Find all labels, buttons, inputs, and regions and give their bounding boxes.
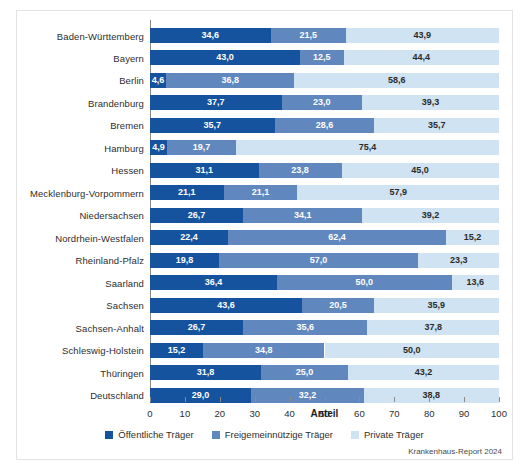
bar-row: Rheinland-Pfalz19,857,023,3 bbox=[150, 253, 499, 268]
bar-value-label: 22,4 bbox=[180, 233, 198, 242]
bar-row: Mecklenburg-Vorpommern21,121,157,9 bbox=[150, 185, 499, 200]
legend-label: Private Träger bbox=[364, 429, 424, 440]
category-label: Berlin bbox=[119, 75, 144, 86]
bar-value-label: 26,7 bbox=[188, 323, 206, 332]
bar-value-label: 43,6 bbox=[217, 301, 235, 310]
bar-segment: 25,0 bbox=[261, 365, 348, 380]
bar-segment: 34,1 bbox=[243, 208, 362, 223]
bar-row: Brandenburg37,723,039,3 bbox=[150, 95, 499, 110]
bar-value-label: 32,2 bbox=[299, 391, 317, 400]
bar-segment: 32,2 bbox=[251, 388, 363, 403]
bar-segment: 31,1 bbox=[150, 163, 259, 178]
bar-row: Sachsen-Anhalt26,735,637,8 bbox=[150, 320, 499, 335]
legend-swatch-icon bbox=[351, 431, 359, 439]
bar-segment: 44,4 bbox=[344, 50, 499, 65]
x-tick bbox=[185, 397, 186, 402]
bar-row: Hessen31,123,845,0 bbox=[150, 163, 499, 178]
bar-value-label: 50,0 bbox=[403, 346, 421, 355]
bar-value-label: 39,2 bbox=[422, 211, 440, 220]
category-label: Sachsen bbox=[106, 300, 144, 311]
bar-segment: 28,6 bbox=[275, 118, 375, 133]
x-tick bbox=[359, 397, 360, 402]
bar-value-label: 15,2 bbox=[168, 346, 186, 355]
x-tick bbox=[150, 397, 151, 402]
x-tick bbox=[429, 397, 430, 402]
bar-row: Bayern43,012,544,4 bbox=[150, 50, 499, 65]
bar-value-label: 34,1 bbox=[294, 211, 312, 220]
bar-value-label: 43,9 bbox=[414, 31, 432, 40]
bar-segment: 20,5 bbox=[302, 298, 374, 313]
bar-value-label: 36,8 bbox=[221, 76, 239, 85]
chart-legend: Öffentliche TrägerFreigemeinnützige Träg… bbox=[17, 429, 512, 440]
legend-item[interactable]: Private Träger bbox=[351, 429, 424, 440]
bar-segment: 34,6 bbox=[150, 28, 271, 43]
bar-segment: 45,0 bbox=[342, 163, 499, 178]
bar-value-label: 35,7 bbox=[428, 121, 446, 130]
bar-value-label: 13,6 bbox=[466, 278, 484, 287]
x-tick bbox=[220, 397, 221, 402]
bar-value-label: 36,4 bbox=[205, 278, 223, 287]
legend-item[interactable]: Öffentliche Träger bbox=[105, 429, 193, 440]
bar-segment: 31,8 bbox=[150, 365, 261, 380]
bar-value-label: 34,8 bbox=[255, 346, 273, 355]
bar-row: Hamburg4,919,775,4 bbox=[150, 140, 499, 155]
bar-row: Sachsen43,620,535,9 bbox=[150, 298, 499, 313]
category-label: Hamburg bbox=[104, 142, 144, 153]
bar-value-label: 26,7 bbox=[188, 211, 206, 220]
bar-segment: 43,2 bbox=[348, 365, 499, 380]
bar-segment: 35,9 bbox=[374, 298, 499, 313]
bar-value-label: 37,8 bbox=[425, 323, 443, 332]
bar-value-label: 19,7 bbox=[193, 143, 211, 152]
bar-segment: 21,5 bbox=[271, 28, 346, 43]
bar-segment: 29,0 bbox=[150, 388, 251, 403]
category-label: Nordrhein-Westfalen bbox=[55, 232, 144, 243]
bar-segment: 23,8 bbox=[259, 163, 342, 178]
x-tick bbox=[464, 397, 465, 402]
bar-segment: 23,0 bbox=[282, 95, 362, 110]
bar-value-label: 4,6 bbox=[152, 76, 165, 85]
bar-row: Niedersachsen26,734,139,2 bbox=[150, 208, 499, 223]
bar-segment: 12,5 bbox=[300, 50, 344, 65]
bar-value-label: 4,9 bbox=[152, 143, 165, 152]
category-label: Thüringen bbox=[100, 367, 144, 378]
bar-segment: 62,4 bbox=[228, 230, 446, 245]
bar-value-label: 39,3 bbox=[422, 98, 440, 107]
bar-segment: 43,9 bbox=[346, 28, 499, 43]
bar-segment: 43,6 bbox=[150, 298, 302, 313]
category-label: Bremen bbox=[110, 120, 144, 131]
bar-segment: 57,0 bbox=[219, 253, 418, 268]
bar-segment: 57,9 bbox=[297, 185, 499, 200]
category-label: Rheinland-Pfalz bbox=[76, 255, 145, 266]
bar-value-label: 23,8 bbox=[291, 166, 309, 175]
bar-segment: 23,3 bbox=[418, 253, 499, 268]
bar-value-label: 57,9 bbox=[390, 188, 408, 197]
bar-segment: 15,2 bbox=[446, 230, 499, 245]
bar-segment: 35,7 bbox=[374, 118, 499, 133]
source-caption: Krankenhaus-Report 2024 bbox=[408, 447, 502, 456]
bar-value-label: 19,8 bbox=[176, 256, 194, 265]
category-label: Hessen bbox=[111, 165, 144, 176]
bar-row: Schleswig-Holstein15,234,850,0 bbox=[150, 343, 499, 358]
bar-row: Thüringen31,825,043,2 bbox=[150, 365, 499, 380]
bar-value-label: 62,4 bbox=[328, 233, 346, 242]
plot-area: Baden-Württemberg34,621,543,9Bayern43,01… bbox=[150, 20, 499, 402]
bar-segment: 26,7 bbox=[150, 208, 243, 223]
bar-segment: 43,0 bbox=[150, 50, 300, 65]
bar-segment: 26,7 bbox=[150, 320, 243, 335]
legend-label: Freigemeinnützige Träger bbox=[225, 429, 333, 440]
bar-segment: 13,6 bbox=[452, 275, 499, 290]
bar-value-label: 23,3 bbox=[450, 256, 468, 265]
bar-value-label: 25,0 bbox=[296, 368, 314, 377]
bar-segment: 39,3 bbox=[362, 95, 499, 110]
bar-value-label: 50,0 bbox=[356, 278, 374, 287]
category-label: Schleswig-Holstein bbox=[62, 345, 144, 356]
bar-segment: 21,1 bbox=[224, 185, 298, 200]
bar-segment: 50,0 bbox=[325, 343, 500, 358]
bar-segment: 37,8 bbox=[367, 320, 499, 335]
bar-segment: 4,9 bbox=[150, 140, 167, 155]
legend-item[interactable]: Freigemeinnützige Träger bbox=[212, 429, 333, 440]
category-label: Mecklenburg-Vorpommern bbox=[30, 187, 144, 198]
bar-segment: 50,0 bbox=[277, 275, 452, 290]
bar-value-label: 43,2 bbox=[415, 368, 433, 377]
bar-segment: 34,8 bbox=[203, 343, 324, 358]
